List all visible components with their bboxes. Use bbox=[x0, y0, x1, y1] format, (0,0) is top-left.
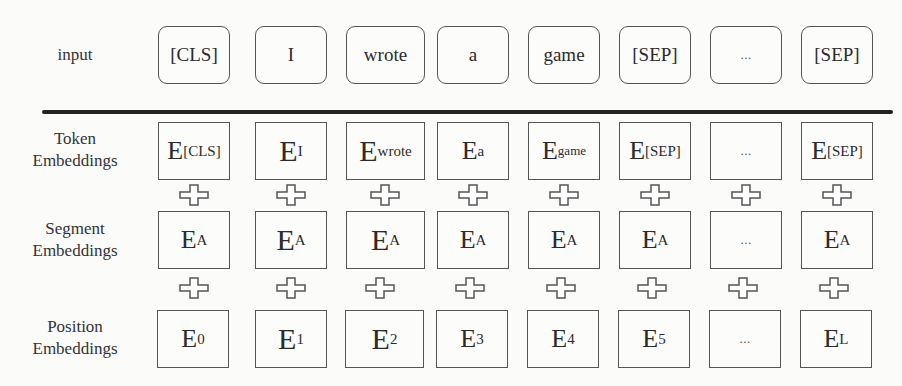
embedding-subscript: A bbox=[295, 232, 306, 249]
input-token-box: I bbox=[255, 26, 327, 84]
embedding-base: E bbox=[642, 326, 658, 352]
plus-icon bbox=[458, 184, 488, 206]
position-embedding-box: EL bbox=[800, 310, 872, 368]
embedding-base: E bbox=[811, 138, 827, 164]
plus-icon bbox=[546, 277, 576, 299]
position-embedding-box: E2 bbox=[345, 310, 424, 368]
input-token-box: game bbox=[528, 26, 600, 84]
embedding-base: E bbox=[181, 227, 197, 253]
input-token-text: game bbox=[543, 44, 584, 66]
embedding-base: E bbox=[551, 326, 567, 352]
embedding-subscript: wrote bbox=[378, 143, 412, 160]
embedding-base: E bbox=[823, 326, 839, 352]
segment-embedding-box: EA bbox=[619, 211, 691, 269]
position-label-line1: Position bbox=[0, 316, 150, 338]
embedding-base: E bbox=[372, 324, 390, 354]
embedding-subscript: 0 bbox=[197, 331, 205, 348]
token-embedding-box: Ea bbox=[437, 122, 509, 180]
token-label-line2: Embeddings bbox=[0, 150, 150, 172]
embedding-base: E bbox=[279, 136, 297, 166]
embedding-subscript: A bbox=[840, 232, 851, 249]
input-token-text: I bbox=[288, 44, 294, 66]
token-embedding-box: ... bbox=[710, 122, 782, 180]
token-label-line1: Token bbox=[0, 128, 150, 150]
token-embedding-box: E[CLS] bbox=[158, 122, 230, 180]
plus-icon bbox=[728, 277, 758, 299]
plus-icon bbox=[179, 184, 209, 206]
input-token-box: a bbox=[437, 26, 509, 84]
position-label-line2: Embeddings bbox=[0, 338, 150, 360]
plus-icon bbox=[819, 277, 849, 299]
token-embedding-box: Ewrote bbox=[346, 122, 425, 180]
segment-embedding-box: EA bbox=[437, 211, 509, 269]
embedding-subscript: 1 bbox=[296, 331, 304, 348]
embedding-base: E bbox=[462, 138, 478, 164]
plus-icon bbox=[637, 277, 667, 299]
input-token-box: [SEP] bbox=[619, 26, 691, 84]
embedding-subscript: A bbox=[197, 232, 208, 249]
position-embedding-box: E1 bbox=[255, 310, 327, 368]
embedding-subscript: [CLS] bbox=[183, 143, 221, 160]
token-embedding-box: EI bbox=[255, 122, 327, 180]
embedding-subscript: A bbox=[476, 232, 487, 249]
plus-icon bbox=[731, 184, 761, 206]
token-embedding-box: Egame bbox=[528, 122, 600, 180]
segment-embedding-box: ... bbox=[710, 211, 782, 269]
ellipsis: ... bbox=[740, 143, 751, 159]
input-token-text: [SEP] bbox=[814, 44, 859, 66]
input-token-text: [SEP] bbox=[632, 44, 677, 66]
embedding-base: E bbox=[629, 138, 645, 164]
row-label-segment-embeddings: Segment Embeddings bbox=[0, 218, 150, 262]
input-token-box: ... bbox=[710, 26, 782, 84]
input-token-text: [CLS] bbox=[170, 44, 218, 66]
embedding-subscript: L bbox=[839, 331, 848, 348]
input-token-text: a bbox=[469, 44, 477, 66]
ellipsis: ... bbox=[739, 331, 750, 347]
segment-embedding-box: EA bbox=[346, 211, 425, 269]
token-embedding-box: E[SEP] bbox=[801, 122, 873, 180]
embedding-subscript: [SEP] bbox=[645, 143, 681, 160]
embedding-base: E bbox=[167, 138, 183, 164]
embedding-base: E bbox=[276, 225, 294, 255]
segment-label-line1: Segment bbox=[0, 218, 150, 240]
embedding-base: E bbox=[460, 326, 476, 352]
embedding-subscript: 3 bbox=[476, 331, 484, 348]
embedding-subscript: a bbox=[478, 143, 485, 160]
position-embedding-box: E5 bbox=[618, 310, 690, 368]
embedding-subscript: I bbox=[298, 143, 303, 160]
row-label-position-embeddings: Position Embeddings bbox=[0, 316, 150, 360]
position-embedding-box: E4 bbox=[527, 310, 599, 368]
input-label: input bbox=[58, 45, 93, 64]
position-embedding-box: E0 bbox=[157, 310, 229, 368]
segment-embedding-box: EA bbox=[255, 211, 327, 269]
embedding-base: E bbox=[181, 326, 197, 352]
input-token-box: [CLS] bbox=[158, 26, 230, 84]
embedding-subscript: 5 bbox=[658, 331, 666, 348]
embedding-subscript: A bbox=[658, 232, 669, 249]
plus-icon bbox=[455, 277, 485, 299]
embedding-base: E bbox=[359, 136, 377, 166]
plus-icon bbox=[179, 277, 209, 299]
embedding-base: E bbox=[460, 227, 476, 253]
embedding-subscript: game bbox=[558, 143, 586, 159]
embedding-base: E bbox=[278, 324, 296, 354]
plus-icon bbox=[822, 184, 852, 206]
row-label-input: input bbox=[0, 44, 150, 66]
token-embedding-box: E[SEP] bbox=[619, 122, 691, 180]
embedding-subscript: 2 bbox=[390, 331, 398, 348]
plus-icon bbox=[549, 184, 579, 206]
embedding-base: E bbox=[371, 225, 389, 255]
plus-icon bbox=[365, 277, 395, 299]
embedding-base: E bbox=[551, 227, 567, 253]
segment-label-line2: Embeddings bbox=[0, 240, 150, 262]
plus-icon bbox=[276, 184, 306, 206]
input-token-box: wrote bbox=[346, 26, 425, 84]
segment-embedding-box: EA bbox=[528, 211, 600, 269]
input-token-box: [SEP] bbox=[801, 26, 873, 84]
plus-icon bbox=[276, 277, 306, 299]
plus-icon bbox=[640, 184, 670, 206]
embedding-subscript: [SEP] bbox=[827, 143, 863, 160]
embedding-base: E bbox=[824, 227, 840, 253]
segment-embedding-box: EA bbox=[158, 211, 230, 269]
embedding-subscript: A bbox=[567, 232, 578, 249]
